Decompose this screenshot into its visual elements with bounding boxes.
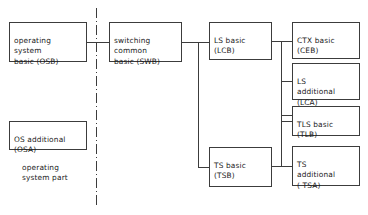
node-ceb[interactable]: CTX basic (CEB)	[292, 22, 360, 59]
node-osb-label: operating system basic (OSB)	[14, 36, 86, 67]
node-tlb[interactable]: TLS basic (TLB)	[292, 106, 360, 136]
connector-tsb-bus	[282, 116, 293, 167]
node-ceb-label: CTX basic (CEB)	[297, 36, 359, 56]
operating-system-part-caption: operating system part	[22, 163, 68, 184]
node-tsa[interactable]: TS additional ( TSA)	[292, 146, 360, 186]
connector-swb-tsb	[199, 43, 210, 168]
diagram-canvas: operating system basic (OSB) OS addition…	[0, 0, 368, 215]
node-osb[interactable]: operating system basic (OSB)	[9, 22, 87, 62]
node-tlb-label: TLS basic (TLB)	[297, 120, 359, 140]
node-tsb-label: TS basic (TSB)	[214, 161, 271, 181]
node-tsb[interactable]: TS basic (TSB)	[209, 147, 272, 187]
node-lca-label: LS additional (LCA)	[297, 77, 359, 108]
node-swb-label: switching common basic (SWB)	[114, 36, 181, 67]
node-osa[interactable]: OS additional (OSA)	[9, 121, 87, 150]
node-lcb-label: LS basic (LCB)	[214, 36, 271, 56]
node-tsa-label: TS additional ( TSA)	[297, 160, 359, 191]
node-swb[interactable]: switching common basic (SWB)	[109, 22, 182, 62]
node-lca[interactable]: LS additional (LCA)	[292, 63, 360, 100]
node-osa-label: OS additional (OSA)	[14, 135, 86, 155]
node-lcb[interactable]: LS basic (LCB)	[209, 22, 272, 60]
